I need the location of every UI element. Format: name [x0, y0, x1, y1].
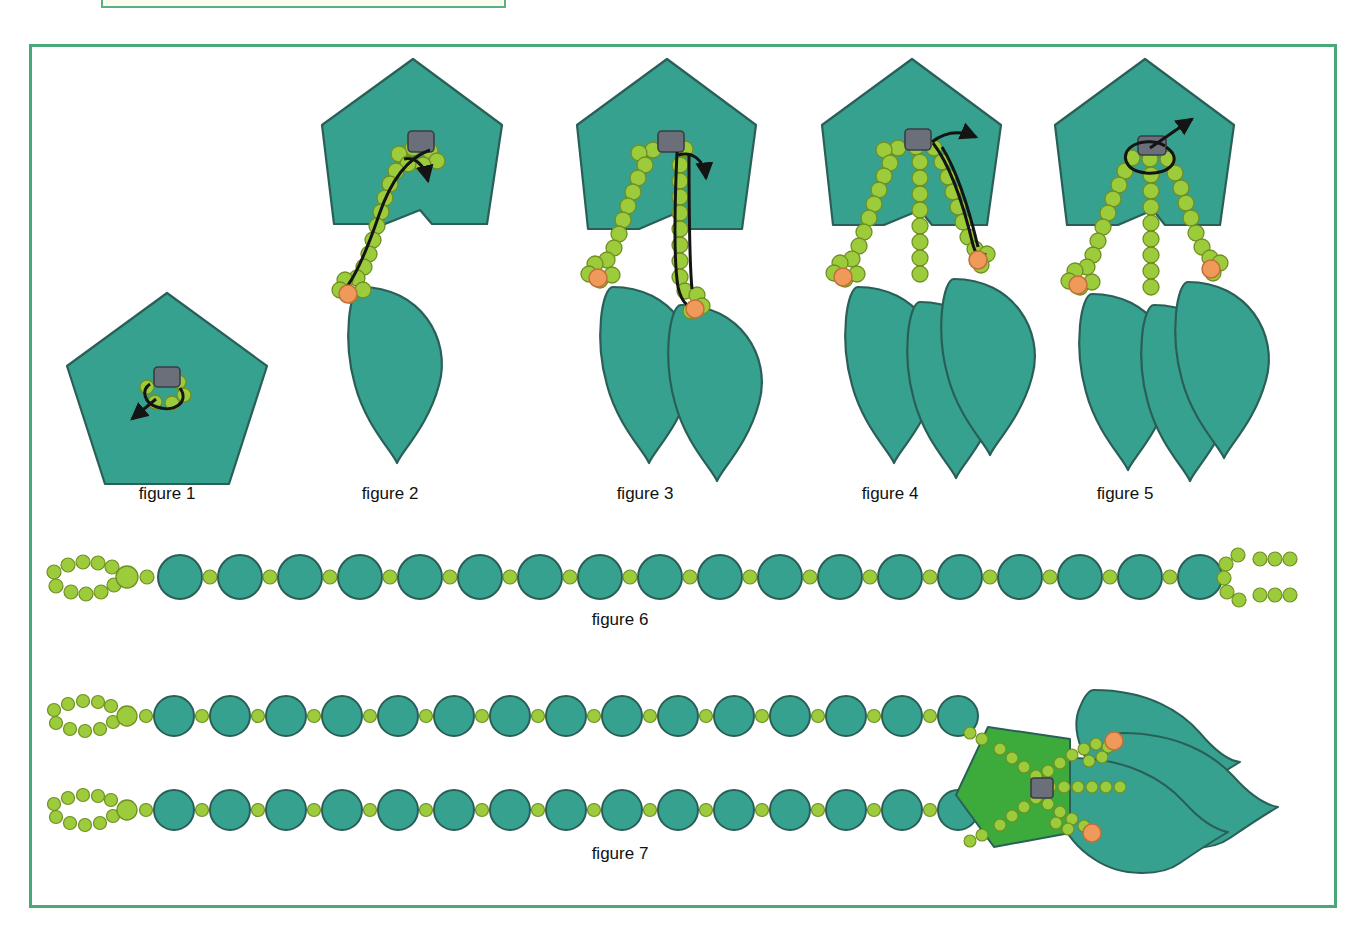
gray-square-marker — [905, 129, 931, 150]
orange-bead-right — [1202, 260, 1220, 278]
figure-5-graphic — [1055, 59, 1269, 481]
figure-2-graphic — [322, 59, 502, 463]
leaf-body-right — [668, 305, 762, 481]
gray-square-marker — [408, 131, 434, 152]
figure-2-label: figure 2 — [362, 484, 419, 503]
figure-7-label: figure 7 — [592, 844, 649, 863]
diagram-illustration: figure 1 figure 2 figure 3 figure 4 figu… — [32, 47, 1334, 905]
figure-6-label: figure 6 — [592, 610, 649, 629]
figure-1-label: figure 1 — [139, 484, 196, 503]
orange-bead — [339, 285, 357, 303]
figure-7-graphic — [48, 690, 1279, 873]
right-bead-fork — [1217, 548, 1297, 607]
figure-1-graphic — [67, 293, 267, 484]
orange-bead-right — [686, 300, 704, 318]
lower-chain — [140, 790, 979, 830]
figure-panel: figure 1 figure 2 figure 3 figure 4 figu… — [29, 44, 1337, 908]
figure-6-graphic — [47, 548, 1297, 607]
main-chain — [140, 555, 1222, 599]
lower-bead-loop — [48, 789, 138, 832]
caption-box: ASEXUALIS REALIBAT — [101, 0, 506, 8]
orange-bead-lower — [1083, 824, 1101, 842]
gray-square-marker — [1031, 778, 1053, 798]
upper-bead-loop — [48, 695, 138, 738]
figure-5-label: figure 5 — [1097, 484, 1154, 503]
upper-chain — [140, 696, 979, 736]
figure-4-graphic — [822, 59, 1035, 478]
figure-3-graphic — [577, 59, 762, 481]
leaf-body — [348, 287, 442, 463]
pentagon-cell — [67, 293, 267, 484]
orange-bead-right — [969, 251, 987, 269]
orange-bead-left — [834, 268, 852, 286]
orange-bead-upper — [1105, 732, 1123, 750]
figure-3-label: figure 3 — [617, 484, 674, 503]
left-bead-loop — [47, 555, 138, 601]
orange-bead-left — [589, 269, 607, 287]
figure-4-label: figure 4 — [862, 484, 919, 503]
gray-square-marker — [658, 131, 684, 152]
gray-square-marker — [154, 367, 180, 387]
orange-bead-left — [1069, 276, 1087, 294]
